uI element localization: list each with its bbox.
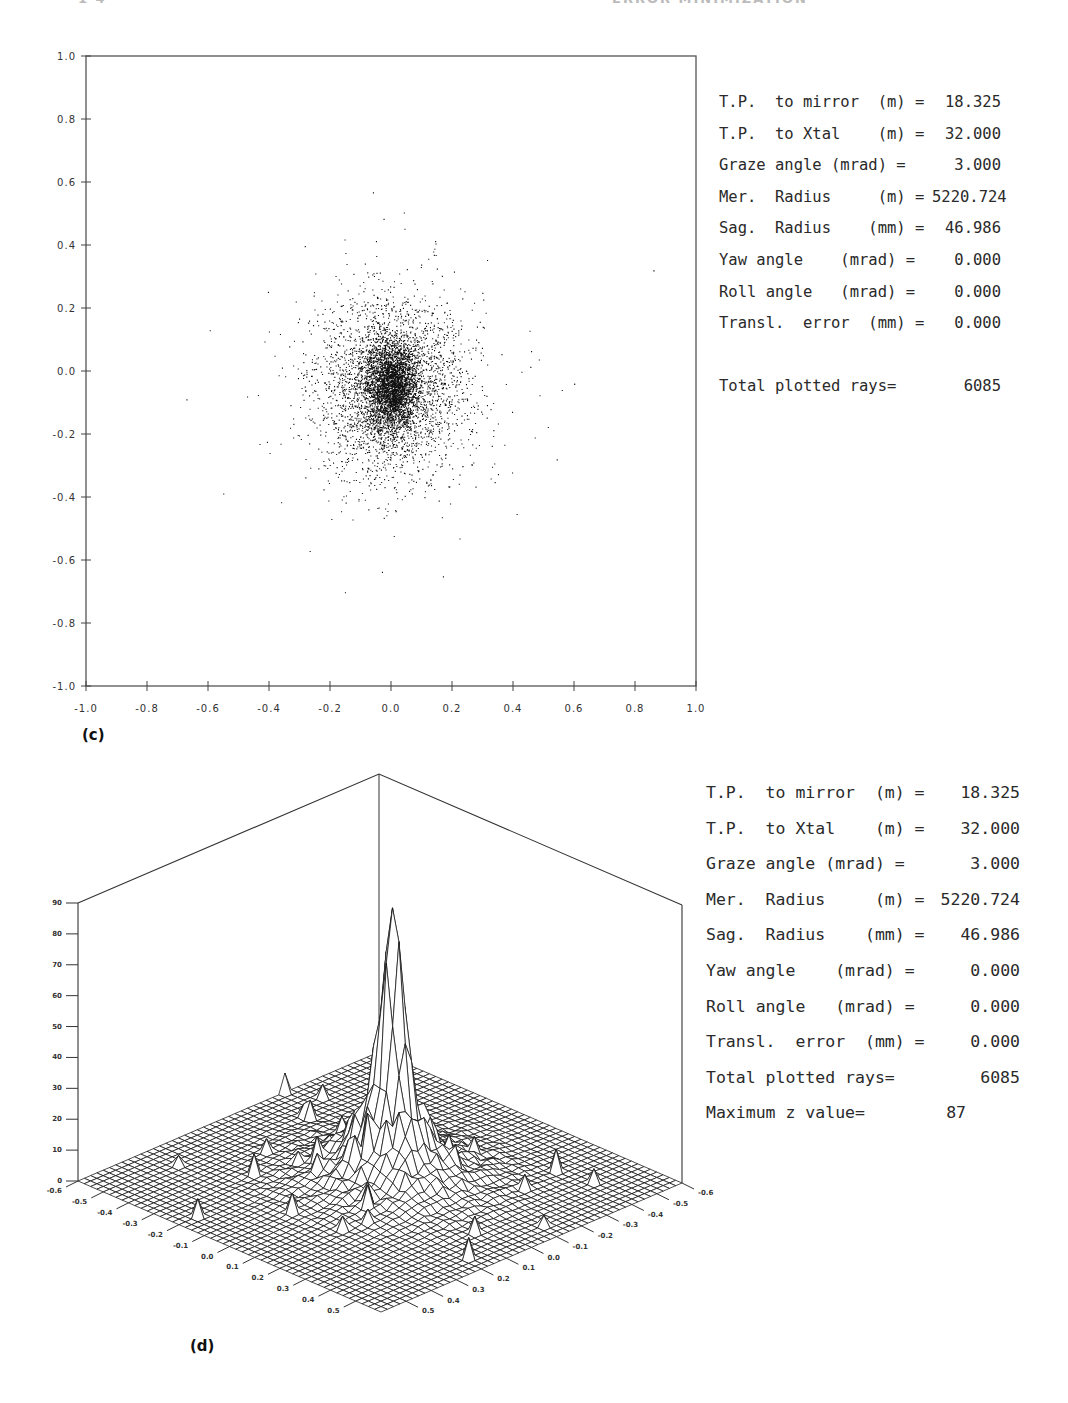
x-tick-mark — [218, 1247, 230, 1253]
z-tick-label: 0 — [57, 1177, 62, 1185]
y-tick-label: -0.2 — [598, 1232, 613, 1240]
x-tick-label: -0.3 — [122, 1220, 137, 1228]
y-tick-mark — [431, 1291, 443, 1297]
y-tick-label: 0.3 — [472, 1286, 485, 1294]
x-tick-mark — [268, 1268, 280, 1274]
x-tick-label: -0.6 — [47, 1187, 62, 1195]
y-tick-label: 0.1 — [522, 1264, 535, 1272]
param-value: 0.000 — [928, 1032, 1020, 1068]
total-rays-row: Total plotted rays=6085 — [706, 1068, 1020, 1104]
param-row: Graze angle (mrad) =3.000 — [706, 854, 1020, 890]
z-tick-label: 30 — [52, 1084, 62, 1092]
param-value: 46.986 — [928, 925, 1020, 961]
param-label: T.P. to mirror (m) = — [706, 783, 928, 819]
x-tick-label: 0.3 — [277, 1285, 290, 1293]
param-value: 18.325 — [928, 783, 1020, 819]
param-label: Yaw angle (mrad) = — [706, 961, 928, 997]
param-label: Roll angle (mrad) = — [706, 997, 928, 1033]
y-tick-mark — [632, 1205, 644, 1211]
y-tick-label: -0.4 — [648, 1211, 663, 1219]
x-tick-label: 0.0 — [201, 1253, 214, 1261]
x-tick-label: 0.1 — [226, 1263, 239, 1271]
x-tick-label: -0.2 — [148, 1231, 163, 1239]
y-tick-label: 0.2 — [497, 1275, 510, 1283]
x-tick-label: 0.2 — [252, 1274, 265, 1282]
param-row: Transl. error (mm) =0.000 — [706, 1032, 1020, 1068]
surface-mesh — [78, 908, 682, 1312]
y-tick-mark — [582, 1226, 594, 1232]
x-tick-mark — [142, 1214, 154, 1220]
panel-d-parameters: T.P. to mirror (m) =18.325 T.P. to Xtal … — [706, 783, 1020, 1139]
param-row: Yaw angle (mrad) =0.000 — [706, 961, 1020, 997]
y-tick-mark — [557, 1237, 569, 1243]
param-row: Roll angle (mrad) =0.000 — [706, 997, 1020, 1033]
param-label: T.P. to Xtal (m) = — [706, 819, 928, 855]
z-tick-label: 40 — [52, 1053, 62, 1061]
surface-histogram-chart: 0102030405060708090-0.6-0.5-0.4-0.3-0.2-… — [0, 0, 1068, 1403]
param-label: Mer. Radius (m) = — [706, 890, 928, 926]
x-tick-mark — [344, 1301, 356, 1307]
z-tick-label: 70 — [52, 961, 62, 969]
param-row: Mer. Radius (m) =5220.724 — [706, 890, 1020, 926]
z-tick-label: 90 — [52, 899, 62, 907]
z-tick-label: 80 — [52, 930, 62, 938]
y-tick-mark — [682, 1183, 694, 1189]
total-rays-label: Total plotted rays= — [706, 1068, 928, 1104]
x-tick-mark — [192, 1236, 204, 1242]
y-tick-label: 0.0 — [548, 1254, 561, 1262]
max-z-row: Maximum z value=87 — [706, 1103, 1020, 1139]
y-tick-mark — [532, 1248, 544, 1254]
param-row: Sag. Radius (mm) =46.986 — [706, 925, 1020, 961]
z-tick-label: 60 — [52, 992, 62, 1000]
param-row: T.P. to mirror (m) =18.325 — [706, 783, 1020, 819]
y-tick-label: -0.3 — [623, 1221, 638, 1229]
param-value: 0.000 — [928, 961, 1020, 997]
total-rays-value: 6085 — [928, 1068, 1020, 1104]
param-label: Sag. Radius (mm) = — [706, 925, 928, 961]
x-tick-mark — [293, 1279, 305, 1285]
param-value: 0.000 — [928, 997, 1020, 1033]
x-tick-label: -0.1 — [173, 1242, 188, 1250]
x-tick-label: -0.5 — [72, 1198, 87, 1206]
x-tick-label: 0.4 — [302, 1296, 315, 1304]
x-tick-mark — [117, 1203, 129, 1209]
max-z-value: 87 — [896, 1103, 966, 1139]
y-tick-mark — [406, 1301, 418, 1307]
y-tick-label: 0.4 — [447, 1297, 460, 1305]
z-tick-label: 10 — [52, 1146, 62, 1154]
y-tick-mark — [481, 1269, 493, 1275]
param-label: Graze angle (mrad) = — [706, 854, 928, 890]
max-z-label: Maximum z value= — [706, 1103, 896, 1139]
y-tick-mark — [506, 1258, 518, 1264]
x-tick-mark — [91, 1192, 103, 1198]
y-tick-mark — [456, 1280, 468, 1286]
x-tick-label: -0.4 — [97, 1209, 112, 1217]
box-top-edges — [78, 774, 682, 905]
x-tick-label: 0.5 — [327, 1307, 340, 1315]
x-tick-mark — [319, 1290, 331, 1296]
x-tick-mark — [243, 1257, 255, 1263]
y-tick-label: -0.5 — [673, 1200, 688, 1208]
param-value: 32.000 — [928, 819, 1020, 855]
x-tick-mark — [167, 1225, 179, 1231]
z-tick-label: 50 — [52, 1023, 62, 1031]
param-value: 5220.724 — [928, 890, 1020, 926]
y-tick-label: 0.5 — [422, 1307, 435, 1315]
y-tick-label: -0.1 — [573, 1243, 588, 1251]
param-value: 3.000 — [928, 854, 1020, 890]
y-tick-mark — [607, 1215, 619, 1221]
param-label: Transl. error (mm) = — [706, 1032, 928, 1068]
z-tick-label: 20 — [52, 1115, 62, 1123]
panel-label-d: (d) — [190, 1337, 214, 1355]
x-tick-mark — [66, 1181, 78, 1187]
y-tick-mark — [657, 1194, 669, 1200]
y-tick-label: -0.6 — [698, 1189, 713, 1197]
param-row: T.P. to Xtal (m) =32.000 — [706, 819, 1020, 855]
